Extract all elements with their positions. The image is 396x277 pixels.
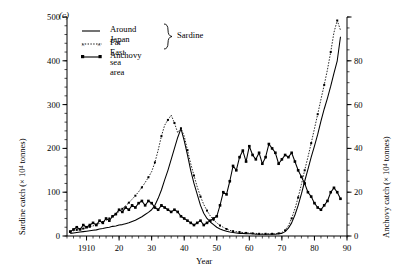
svg-text:60: 60 xyxy=(245,243,254,253)
legend-brace-icon xyxy=(163,23,177,51)
svg-text:30: 30 xyxy=(147,243,156,253)
svg-text:0: 0 xyxy=(354,231,358,241)
svg-text:400: 400 xyxy=(47,56,60,66)
svg-text:200: 200 xyxy=(47,143,60,153)
svg-text:1910: 1910 xyxy=(78,243,95,253)
legend-swatch-solid-line-icon xyxy=(80,25,106,37)
svg-text:40: 40 xyxy=(354,143,363,153)
y-left-axis-title: Sardine catch (× 10⁴ tonnes) xyxy=(17,138,27,235)
legend-swatch-solid-square-icon xyxy=(80,51,106,63)
x-axis-title: Year xyxy=(196,256,212,266)
legend-group-label-sardine: Sardine xyxy=(177,30,203,40)
chart-svg: 1910203040506070809001002003004005000204… xyxy=(0,0,396,277)
svg-text:20: 20 xyxy=(115,243,124,253)
figure-panel-c: 1910203040506070809001002003004005000204… xyxy=(0,0,396,277)
svg-text:60: 60 xyxy=(354,100,363,110)
svg-text:0: 0 xyxy=(56,231,60,241)
svg-text:40: 40 xyxy=(180,243,189,253)
panel-label: (c) xyxy=(59,10,69,20)
svg-text:90: 90 xyxy=(343,243,352,253)
svg-text:50: 50 xyxy=(212,243,221,253)
svg-text:100: 100 xyxy=(47,187,60,197)
svg-text:80: 80 xyxy=(310,243,319,253)
svg-text:80: 80 xyxy=(354,56,363,66)
y-right-axis-title: Anchovy catch (× 10⁴ tonnes) xyxy=(381,136,391,238)
svg-text:×: × xyxy=(81,41,85,49)
legend-label-2: Anchovy xyxy=(110,50,142,60)
svg-text:20: 20 xyxy=(354,187,363,197)
legend-swatch-dotted-cross-icon: × × xyxy=(80,38,106,50)
svg-text:×: × xyxy=(97,41,101,49)
svg-text:70: 70 xyxy=(278,243,287,253)
svg-text:300: 300 xyxy=(47,100,60,110)
